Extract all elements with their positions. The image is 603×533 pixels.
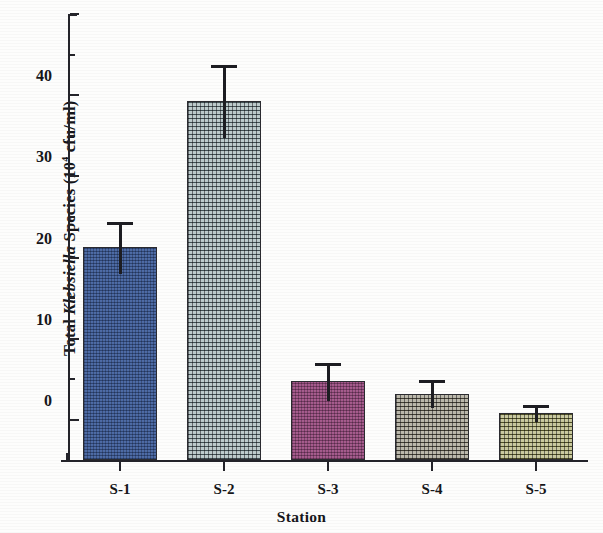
y-tick-label: 40 bbox=[0, 67, 52, 85]
y-tick-major bbox=[70, 419, 79, 421]
x-tick bbox=[535, 462, 537, 471]
y-tick-label: 10 bbox=[0, 311, 52, 329]
error-bar-stem-s-5 bbox=[535, 408, 538, 423]
error-bar-stem-s-4 bbox=[431, 383, 434, 407]
error-bar-cap-s-3 bbox=[315, 363, 341, 366]
error-bar-stem-s-2 bbox=[223, 68, 226, 138]
error-bar-cap-s-2 bbox=[211, 65, 237, 68]
bar-texture bbox=[84, 248, 156, 459]
y-tick-major bbox=[70, 94, 79, 96]
x-axis-origin-tick bbox=[66, 453, 68, 462]
x-tick-label-s-1: S-1 bbox=[85, 481, 155, 498]
y-tick-label: 50 bbox=[0, 0, 52, 4]
y-tick-major bbox=[70, 338, 79, 340]
x-tick-label-s-3: S-3 bbox=[293, 481, 363, 498]
x-tick bbox=[431, 462, 433, 471]
y-tick-minor bbox=[70, 135, 75, 137]
error-bar-cap-s-1 bbox=[107, 222, 133, 225]
x-tick-label-s-5: S-5 bbox=[501, 481, 571, 498]
bar-s-2 bbox=[187, 101, 261, 460]
error-bar-cap-s-5 bbox=[523, 405, 549, 408]
plot-area: 01020304050 S-1S-2S-3S-4S-5 bbox=[68, 14, 588, 462]
y-tick-minor bbox=[70, 54, 75, 56]
error-bar-stem-s-3 bbox=[327, 366, 330, 402]
x-axis-title: Station bbox=[0, 508, 603, 526]
y-tick-major bbox=[70, 175, 79, 177]
y-tick-minor bbox=[70, 297, 75, 299]
x-tick bbox=[119, 462, 121, 471]
x-tick-label-s-4: S-4 bbox=[397, 481, 467, 498]
bar-texture bbox=[188, 102, 260, 459]
x-tick-label-s-2: S-2 bbox=[189, 481, 259, 498]
bar-s-1 bbox=[83, 247, 157, 460]
y-tick-label: 20 bbox=[0, 230, 52, 248]
y-tick-minor bbox=[70, 216, 75, 218]
y-tick-label: 0 bbox=[0, 392, 52, 410]
y-tick-major bbox=[70, 257, 79, 259]
x-tick bbox=[327, 462, 329, 471]
y-tick-major bbox=[70, 13, 79, 15]
y-axis-line bbox=[68, 14, 70, 462]
y-tick-minor bbox=[70, 378, 75, 380]
error-bar-cap-s-4 bbox=[419, 380, 445, 383]
y-tick-label: 30 bbox=[0, 148, 52, 166]
error-bar-stem-s-1 bbox=[119, 225, 122, 274]
x-tick bbox=[223, 462, 225, 471]
figure-bar-chart: Total Klebsiella Species (104 cfu/ml) St… bbox=[0, 0, 603, 533]
